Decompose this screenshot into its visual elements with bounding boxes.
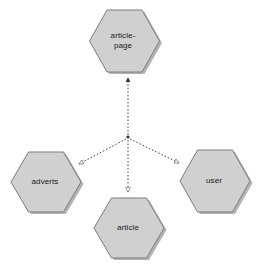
diagram-graphics (0, 0, 256, 271)
node-group (11, 10, 253, 260)
junction-dot (126, 135, 129, 138)
edge-to-adverts (79, 139, 126, 164)
node-article[interactable] (94, 198, 167, 260)
edge-group (79, 78, 179, 192)
node-adverts[interactable] (11, 152, 84, 214)
node-user[interactable] (180, 150, 253, 214)
diagram-canvas: article- page adverts user article (0, 0, 256, 271)
edge-to-user (130, 139, 179, 163)
